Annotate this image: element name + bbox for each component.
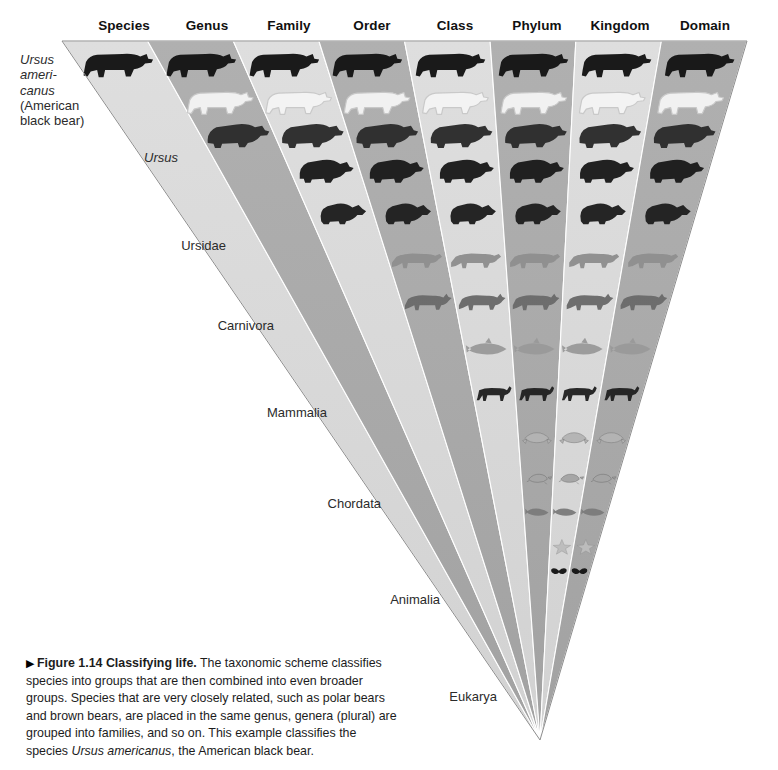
taxon-label-eukarya: Eukarya [449, 689, 497, 704]
wedge-band-group [62, 41, 747, 740]
taxon-label-line: Ursus [20, 52, 84, 67]
figure-caption: ▶Figure 1.14 Classifying life. The taxon… [26, 655, 398, 761]
taxon-label-line: black bear) [20, 113, 84, 128]
taxon-label-line: Chordata [328, 496, 381, 511]
taxon-label-line: canus [20, 83, 84, 98]
figure-body-second: , the American black bear. [171, 744, 314, 758]
taxon-label-animalia: Animalia [390, 592, 440, 607]
figure-body-first: The taxonomic scheme classifies species … [26, 656, 397, 758]
taxon-label-line: Animalia [390, 592, 440, 607]
taxon-label-line: Mammalia [267, 405, 327, 420]
taxon-label-line: Ursidae [181, 238, 226, 253]
taxon-label-line: Carnivora [218, 318, 274, 333]
taxonomy-figure: SpeciesGenusFamilyOrderClassPhylumKingdo… [0, 0, 778, 770]
figure-title: Classifying life. [106, 656, 197, 670]
taxon-label-chordata: Chordata [328, 496, 381, 511]
taxon-label-ursus: Ursus [144, 150, 178, 165]
taxon-label-ursus-americanus: Ursusameri-canus(Americanblack bear) [20, 52, 84, 129]
taxon-label-line: Ursus [144, 150, 178, 165]
taxon-label-line: Eukarya [449, 689, 497, 704]
taxon-label-carnivora: Carnivora [218, 318, 274, 333]
taxon-label-line: ameri- [20, 67, 84, 82]
taxon-label-ursidae: Ursidae [181, 238, 226, 253]
taxon-label-line: (American [20, 98, 84, 113]
figure-species-name: Ursus americanus [71, 744, 171, 758]
taxon-label-mammalia: Mammalia [267, 405, 327, 420]
figure-marker-icon: ▶ [26, 657, 34, 669]
figure-number: Figure 1.14 [37, 656, 102, 670]
